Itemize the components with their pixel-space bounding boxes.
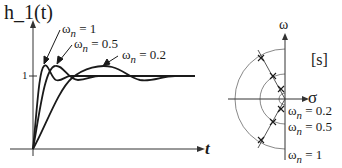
circle-label-wn-0.2: ωn = 0.2	[288, 104, 332, 120]
circle-label-wn-1: ωn = 1	[288, 148, 322, 164]
x-axis-label: t	[205, 140, 210, 157]
y-axis-label: h_1(t)	[4, 2, 53, 22]
level-one-label: 1	[22, 70, 28, 81]
curve-wn-0.2	[33, 66, 195, 149]
s-plane-axes	[228, 38, 305, 160]
curve-wn-0.5	[33, 66, 195, 149]
omega-axis-label: ω	[279, 18, 288, 32]
omega-axis-arrow-icon	[282, 33, 288, 40]
curve-label-wn-0.2: ωn = 0.2	[122, 48, 166, 64]
diagram-canvas	[0, 0, 342, 168]
time-axis-arrow-icon	[197, 146, 205, 152]
s-plane-label: [s]	[311, 52, 328, 68]
curve-wn-1	[33, 65, 195, 149]
step-curves	[33, 65, 195, 149]
curve-label-wn-0.5: ωn = 0.5	[74, 37, 118, 53]
circle-label-wn-0.5: ωn = 0.5	[288, 120, 332, 136]
